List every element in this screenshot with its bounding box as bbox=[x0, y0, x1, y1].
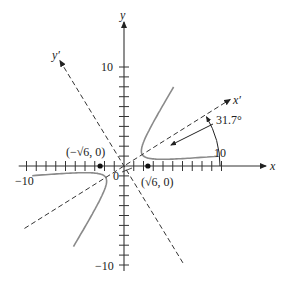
y-prime-axis bbox=[60, 61, 183, 263]
point-neg-sqrt6 bbox=[98, 163, 103, 168]
angle-label: 31.7° bbox=[216, 113, 242, 127]
x-axis-label: x bbox=[269, 159, 276, 173]
point-label-pos-sqrt6: (√6, 0) bbox=[141, 175, 174, 189]
hyperbola-branch-right bbox=[141, 87, 217, 159]
point-pos-sqrt6 bbox=[145, 163, 150, 168]
x-prime-axis-label: x′ bbox=[232, 93, 241, 107]
x-tick-label-neg10: −10 bbox=[15, 174, 34, 188]
angle-leader-line bbox=[171, 124, 213, 145]
origin-label: 0 bbox=[113, 169, 119, 183]
angle-annotation bbox=[122, 117, 220, 172]
y-tick-label-10: 10 bbox=[101, 60, 113, 74]
point-label-neg-sqrt6: (−√6, 0) bbox=[66, 145, 105, 159]
rotated-hyperbola-diagram: y x y′ x′ 10 −10 −10 10 0 31.7° (−√6, 0)… bbox=[0, 0, 281, 284]
x-tick-label-10: 10 bbox=[214, 146, 226, 160]
y-axis-label: y bbox=[119, 8, 126, 22]
y-tick-label-neg10: −10 bbox=[95, 259, 114, 273]
y-prime-axis-label: y′ bbox=[51, 48, 60, 62]
